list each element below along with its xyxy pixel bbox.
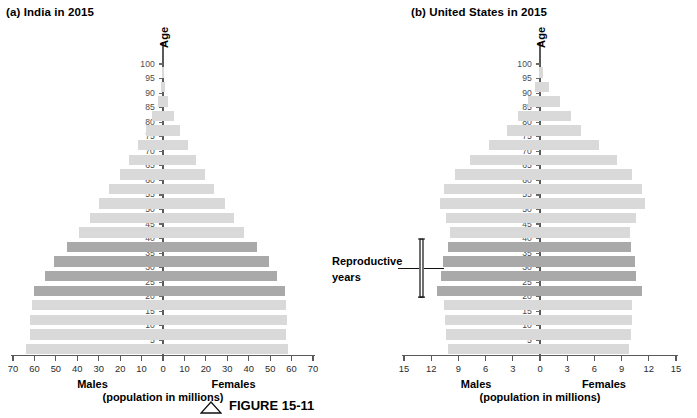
y-axis-tick-mark (159, 194, 163, 195)
bar-male (445, 315, 540, 325)
y-axis-tick-mark (159, 223, 163, 224)
x-axis-tick-mark (141, 356, 142, 361)
y-axis-tick-mark (159, 296, 163, 297)
bar-male (444, 300, 540, 310)
bar-female (163, 271, 277, 281)
y-axis-tick-mark (159, 151, 163, 152)
y-axis-tick-label: 95 (504, 73, 532, 83)
bar-female (163, 286, 285, 296)
x-axis-tick-label: 60 (286, 363, 296, 374)
y-axis-tick-mark (159, 311, 163, 312)
x-axis-label-males: Males (461, 378, 492, 390)
y-axis-tick-mark (159, 122, 163, 123)
bar-female (163, 67, 164, 77)
x-axis-tick-mark (55, 356, 56, 361)
bar-male (30, 315, 163, 325)
bar-male (446, 213, 540, 223)
y-axis-tick-mark (536, 253, 540, 254)
bar-female (163, 300, 286, 310)
y-axis-title: Age (158, 27, 170, 48)
bar-male (441, 271, 540, 281)
bar-female (163, 140, 188, 150)
x-axis-label-females: Females (211, 378, 255, 390)
x-axis-tick-label: 3 (565, 363, 570, 374)
bar-male (489, 140, 540, 150)
y-axis-tick-mark (536, 136, 540, 137)
bar-female (540, 329, 631, 339)
y-axis-tick-mark (536, 151, 540, 152)
y-axis-tick-label: 100 (504, 59, 532, 69)
bar-male (34, 286, 163, 296)
bar-female (163, 198, 225, 208)
bar-male (67, 242, 163, 252)
figure-caption-label: FIGURE 15-11 (229, 398, 314, 413)
bar-female (163, 125, 180, 135)
x-axis-tick-label: 15 (671, 363, 681, 374)
y-axis-tick-mark (536, 223, 540, 224)
x-axis-tick-mark (227, 356, 228, 361)
bar-female (163, 169, 205, 179)
x-axis-tick-label: 40 (243, 363, 253, 374)
bar-male (448, 344, 540, 354)
bar-female (540, 315, 632, 325)
y-axis-tick-label: 100 (127, 59, 155, 69)
y-axis-tick-mark (536, 267, 540, 268)
y-axis-tick-mark (536, 63, 540, 64)
y-axis-tick-mark (536, 180, 540, 181)
bar-female (163, 213, 234, 223)
x-axis-tick-mark (539, 356, 540, 361)
y-axis-tick-mark (159, 93, 163, 94)
bar-female (540, 82, 549, 92)
bar-male (99, 198, 163, 208)
x-axis-tick-mark (594, 356, 595, 361)
x-axis-tick-mark (98, 356, 99, 361)
x-axis-tick-label: 20 (201, 363, 211, 374)
x-axis-tick-mark (12, 356, 13, 361)
x-axis-label-females: Females (582, 378, 626, 390)
bar-male (507, 125, 540, 135)
y-axis-tick-mark (536, 165, 540, 166)
x-axis-tick-label: 70 (308, 363, 318, 374)
bar-female (163, 315, 287, 325)
y-axis-tick-mark (159, 282, 163, 283)
bar-female (540, 111, 571, 121)
bar-female (540, 242, 631, 252)
y-axis-tick-mark (159, 267, 163, 268)
bar-female (540, 256, 635, 266)
bar-female (540, 67, 543, 77)
y-axis-tick-mark (159, 107, 163, 108)
bar-female (540, 125, 581, 135)
bar-female (163, 82, 165, 92)
x-axis-tick-label: 30 (93, 363, 103, 374)
y-axis-tick-mark (536, 194, 540, 195)
x-axis-tick-label: 20 (115, 363, 125, 374)
y-axis-tick-mark (536, 282, 540, 283)
bar-male (444, 184, 540, 194)
bar-male (443, 256, 540, 266)
y-axis-tick-mark (536, 122, 540, 123)
y-axis-tick-mark (536, 238, 540, 239)
x-axis-tick-mark (270, 356, 271, 361)
bar-female (163, 242, 257, 252)
y-axis-tick-mark (536, 209, 540, 210)
y-axis-title: Age (535, 27, 547, 48)
x-axis-tick-label: 6 (592, 363, 597, 374)
figure-caption: FIGURE 15-11 (200, 398, 314, 413)
bar-female (540, 198, 645, 208)
y-axis-tick-mark (536, 325, 540, 326)
x-axis-tick-label: 50 (51, 363, 61, 374)
bar-male (138, 140, 163, 150)
x-axis-tick-label: 50 (265, 363, 275, 374)
bar-male (528, 96, 540, 106)
y-axis-tick-mark (159, 253, 163, 254)
y-axis-tick-label: 90 (127, 88, 155, 98)
y-axis-tick-mark (536, 78, 540, 79)
y-axis-tick-label: 85 (127, 102, 155, 112)
bar-male (45, 271, 163, 281)
x-axis-tick-label: 0 (537, 363, 542, 374)
y-axis-tick-mark (536, 340, 540, 341)
bar-female (540, 271, 636, 281)
bar-male (109, 184, 163, 194)
bar-male (146, 125, 163, 135)
bar-male (129, 155, 163, 165)
